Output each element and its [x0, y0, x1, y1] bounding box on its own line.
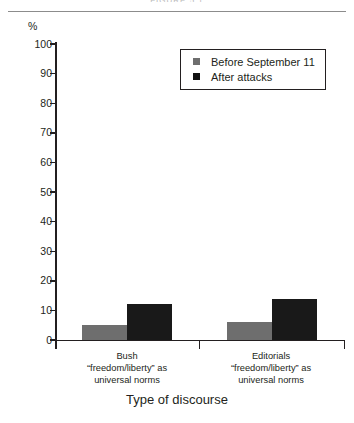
y-tick-mark-20 — [50, 280, 56, 281]
legend-label-before: Before September 11 — [211, 56, 315, 68]
y-tick-mark-100 — [50, 43, 56, 44]
legend-item-before: Before September 11 — [187, 54, 319, 69]
y-axis-label: % — [28, 20, 37, 32]
y-tick-mark-50 — [50, 191, 56, 192]
y-tick-mark-80 — [50, 103, 56, 104]
category-0-line-2: “freedom/liberty” as — [52, 362, 202, 374]
y-axis-line — [55, 42, 57, 349]
y-tick-mark-90 — [50, 73, 56, 74]
legend-item-after: After attacks — [187, 69, 319, 84]
y-tick-mark-60 — [50, 162, 56, 163]
x-axis-middle-tick — [199, 340, 200, 349]
legend-swatch-before-icon — [193, 58, 200, 65]
y-tick-mark-40 — [50, 221, 56, 222]
category-1-line-3: universal norms — [196, 374, 346, 386]
y-tick-mark-70 — [50, 132, 56, 133]
figure-chart: FIGURE 5.1 % 0102030405060708090100 Befo… — [0, 0, 354, 423]
category-0-line-3: universal norms — [52, 374, 202, 386]
y-tick-mark-30 — [50, 251, 56, 252]
bar-group-0-series-0 — [82, 325, 127, 340]
x-axis-title: Type of discourse — [0, 392, 354, 407]
legend-swatch-after-icon — [193, 73, 200, 80]
plot-area: % 0102030405060708090100 Before Septembe… — [0, 0, 354, 423]
category-1-line-1: Editorials — [196, 350, 346, 362]
x-category-label-0: Bush “freedom/liberty” as universal norm… — [52, 350, 202, 387]
legend: Before September 11 After attacks — [180, 49, 326, 90]
x-category-label-1: Editorials “freedom/liberty” as universa… — [196, 350, 346, 387]
x-axis-end-tick — [344, 340, 346, 349]
category-0-line-1: Bush — [52, 350, 202, 362]
bar-group-0-series-1 — [127, 304, 172, 340]
legend-label-after: After attacks — [211, 71, 272, 83]
y-tick-mark-0 — [50, 339, 56, 340]
category-1-line-2: “freedom/liberty” as — [196, 362, 346, 374]
bar-group-1-series-1 — [272, 299, 317, 340]
y-tick-mark-10 — [50, 310, 56, 311]
bar-group-1-series-0 — [227, 322, 272, 340]
